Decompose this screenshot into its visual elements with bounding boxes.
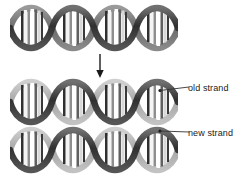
- parent-helix-graphic: [10, 4, 178, 52]
- leader-line-old-strand: [158, 83, 190, 93]
- arrow-down-icon: [92, 54, 108, 78]
- leader-line-new-strand: [158, 128, 190, 138]
- dna-replication-figure: old strand new strand: [0, 0, 249, 183]
- daughter-double-helix-2: [10, 126, 178, 174]
- daughter-2-helix-graphic: [10, 126, 178, 174]
- replication-arrow: [92, 54, 108, 78]
- label-old-strand: old strand: [188, 83, 229, 94]
- leader-line-old-strand-graphic: [158, 83, 190, 93]
- daughter-1-helix-graphic: [10, 78, 178, 126]
- parent-double-helix: [10, 4, 178, 52]
- daughter-double-helix-1: [10, 78, 178, 126]
- leader-line-new-strand-graphic: [158, 128, 190, 138]
- label-new-strand: new strand: [188, 128, 233, 139]
